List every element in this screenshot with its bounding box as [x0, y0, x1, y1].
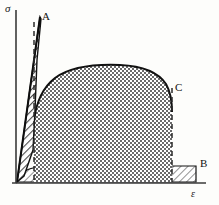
curve-label-b: B — [200, 157, 207, 169]
stress-strain-figure: σ ε A B C — [0, 0, 219, 205]
y-axis-label: σ — [5, 2, 10, 14]
curve-label-c: C — [175, 81, 182, 93]
x-axis-label: ε — [191, 188, 195, 199]
plot-canvas — [0, 0, 219, 205]
curve-label-a: A — [42, 10, 50, 22]
region-c-dome — [34, 65, 172, 182]
